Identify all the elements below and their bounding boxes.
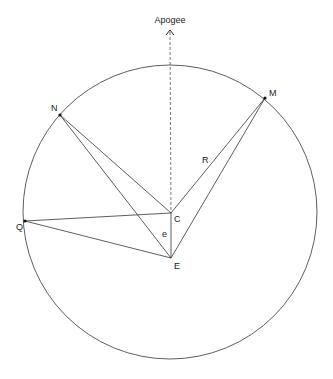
point-M-label: M <box>269 88 277 98</box>
segment-M-E <box>171 98 265 258</box>
segment-N-E <box>60 115 171 258</box>
radius-label: R <box>202 155 209 165</box>
point-M-marker <box>263 96 266 99</box>
segment-Q-E <box>25 221 171 258</box>
eccentric-circle-diagram: Apogee CENMQ R e <box>0 0 333 379</box>
segments-group <box>25 98 265 258</box>
point-N-marker <box>58 113 61 116</box>
segment-N-C <box>60 115 171 213</box>
segment-M-C <box>171 98 265 213</box>
apogee-dashed-line <box>170 32 171 213</box>
point-Q-marker <box>23 219 26 222</box>
point-Q-label: Q <box>16 222 23 232</box>
point-N-label: N <box>51 103 58 113</box>
segment-Q-C <box>25 213 171 221</box>
point-E-label: E <box>174 261 180 271</box>
apogee-label: Apogee <box>154 15 185 25</box>
eccentricity-label: e <box>162 229 167 239</box>
point-C-label: C <box>174 214 181 224</box>
points-group: CENMQ <box>16 88 277 271</box>
